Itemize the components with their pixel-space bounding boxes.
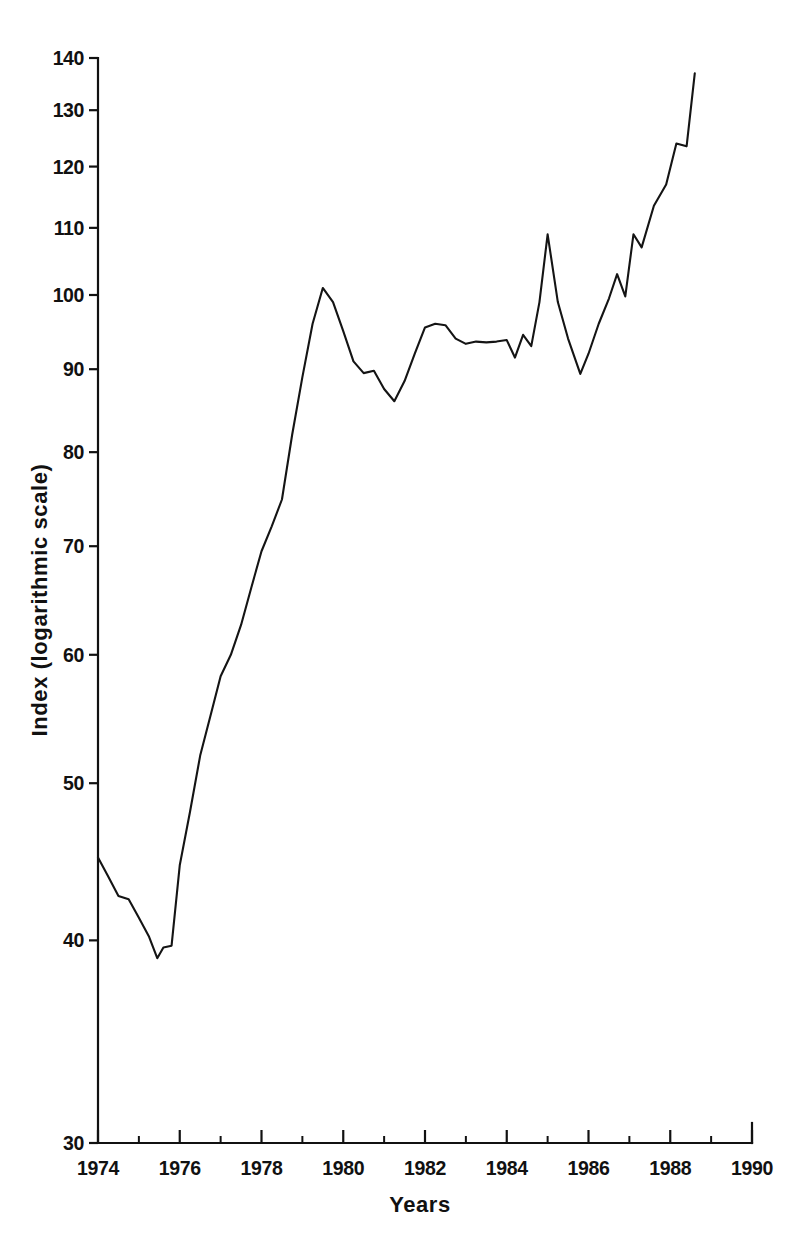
x-tick-label: 1974 (77, 1157, 119, 1179)
y-axis-title: Index (logarithmic scale) (27, 464, 52, 737)
y-tick-label: 80 (63, 441, 84, 463)
y-tick-label: 140 (53, 47, 85, 69)
x-tick-label: 1986 (568, 1157, 610, 1179)
y-tick-label: 40 (63, 929, 84, 951)
x-tick-label: 1988 (649, 1157, 691, 1179)
x-tick-label: 1980 (322, 1157, 364, 1179)
y-tick-label: 50 (63, 772, 84, 794)
x-tick-label: 1976 (159, 1157, 201, 1179)
y-tick-label: 60 (63, 644, 84, 666)
chart-background (0, 0, 809, 1253)
x-tick-label: 1990 (731, 1157, 773, 1179)
x-tick-label: 1982 (404, 1157, 446, 1179)
y-tick-label: 30 (63, 1132, 84, 1154)
x-tick-label: 1978 (241, 1157, 283, 1179)
y-tick-label: 130 (53, 99, 85, 121)
x-tick-label: 1984 (486, 1157, 528, 1179)
y-tick-label: 100 (53, 284, 85, 306)
x-axis-title: Years (389, 1192, 451, 1217)
y-tick-label: 120 (53, 156, 85, 178)
line-chart-svg: 30405060708090100110120130140 1974197619… (0, 0, 809, 1253)
y-tick-label: 110 (54, 217, 85, 239)
chart-figure: 30405060708090100110120130140 1974197619… (0, 0, 809, 1253)
y-tick-label: 90 (63, 358, 84, 380)
y-tick-label: 70 (63, 535, 84, 557)
